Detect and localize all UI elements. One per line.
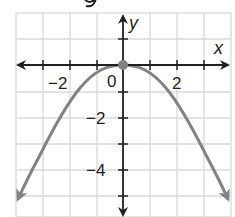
y-axis <box>118 16 128 215</box>
vertex-point <box>118 60 128 70</box>
cropped-heading-fragment <box>84 0 96 6</box>
x-tick-label-2: 2 <box>172 74 181 93</box>
x-tick-label-0: 0 <box>107 72 116 91</box>
parabola-graph: x y −2 0 2 −2 −4 <box>0 0 235 217</box>
x-tick-label-neg2: −2 <box>48 74 67 93</box>
y-axis-label: y <box>127 13 139 33</box>
x-axis-label: x <box>213 38 224 58</box>
y-tick-label-neg2: −2 <box>86 109 105 128</box>
y-tick-label-neg4: −4 <box>86 161 105 180</box>
